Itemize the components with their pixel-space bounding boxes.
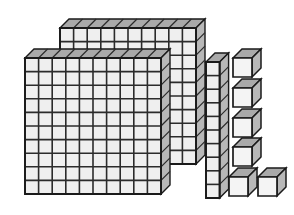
blocks-canvas: [0, 0, 294, 215]
unit-cube: [233, 138, 261, 166]
unit-cube: [229, 168, 257, 196]
cube-front-face: [233, 88, 252, 107]
hundred-flat: [25, 49, 170, 194]
base-ten-blocks-figure: Base ten blocks representing 216 Two hun…: [0, 0, 294, 215]
unit-cube: [258, 168, 286, 196]
cube-front-face: [233, 58, 252, 77]
cube-front-face: [258, 177, 277, 196]
unit-cube: [233, 49, 261, 77]
unit-cube: [233, 79, 261, 107]
cube-front-face: [233, 147, 252, 166]
tens-group: [206, 53, 229, 198]
cube-front-face: [233, 118, 252, 137]
ten-rod: [206, 53, 229, 198]
cube-front-face: [229, 177, 248, 196]
unit-cube: [233, 109, 261, 137]
